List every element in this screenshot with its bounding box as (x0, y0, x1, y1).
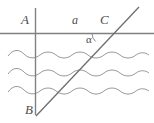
diagonal-ray-bc (36, 7, 139, 116)
geometry-figure: A a C α B (0, 0, 154, 123)
angle-arc-alpha (92, 34, 96, 42)
label-point-a: A (21, 13, 29, 26)
label-point-b: B (25, 103, 33, 116)
wave-line-3 (8, 86, 149, 94)
label-segment-a: a (72, 14, 78, 26)
wave-line-1 (8, 50, 149, 58)
label-point-c: C (100, 13, 109, 26)
wave-lines-group (8, 50, 149, 94)
wave-line-2 (8, 68, 149, 76)
label-angle-alpha: α (86, 34, 92, 45)
